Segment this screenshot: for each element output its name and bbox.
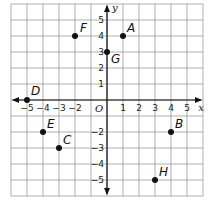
- y-tick-label: 4: [98, 31, 104, 41]
- y-tick-label: 3: [98, 47, 104, 57]
- point-marker: [24, 97, 30, 103]
- point-label: G: [111, 52, 120, 66]
- point-marker: [104, 49, 110, 55]
- point-label: F: [80, 21, 88, 35]
- axes: xyO: [12, 2, 204, 195]
- x-tick-label: 2: [136, 103, 142, 113]
- point-marker: [56, 145, 62, 151]
- point-label: E: [47, 117, 55, 131]
- point-label: C: [63, 133, 72, 147]
- y-axis-arrow-up-icon: [104, 5, 110, 12]
- x-tick-label: 3: [152, 103, 158, 113]
- x-tick-label: −3: [52, 103, 65, 113]
- x-tick-label: −2: [68, 103, 81, 113]
- y-tick-label: −2: [91, 127, 104, 137]
- point-label: B: [175, 117, 183, 131]
- x-tick-label: 1: [120, 103, 126, 113]
- point-label: A: [126, 21, 135, 35]
- point-marker: [120, 33, 126, 39]
- point-label: H: [159, 165, 168, 179]
- point-marker: [168, 129, 174, 135]
- y-tick-label: 1: [98, 79, 104, 89]
- y-axis-arrow-down-icon: [104, 188, 110, 195]
- x-axis-label: x: [198, 102, 204, 113]
- y-axis-label: y: [111, 2, 118, 13]
- x-tick-label: −4: [36, 103, 50, 113]
- point-marker: [72, 33, 78, 39]
- x-tick-label: 4: [168, 103, 174, 113]
- x-axis-arrow-left-icon: [12, 97, 19, 103]
- y-tick-label: 5: [98, 15, 104, 25]
- point-marker: [40, 129, 46, 135]
- point-label: D: [31, 84, 40, 98]
- x-tick-label: −5: [20, 103, 33, 113]
- y-tick-label: −5: [91, 175, 104, 185]
- y-tick-label: −4: [91, 159, 105, 169]
- point-marker: [152, 177, 158, 183]
- x-tick-label: 5: [184, 103, 190, 113]
- y-tick-label: −3: [91, 143, 104, 153]
- origin-label: O: [95, 103, 103, 114]
- coordinate-plane: xyO −5−4−3−21234554321−2−3−4−5 ABCDEFGH: [0, 0, 213, 221]
- y-tick-label: 2: [98, 63, 104, 73]
